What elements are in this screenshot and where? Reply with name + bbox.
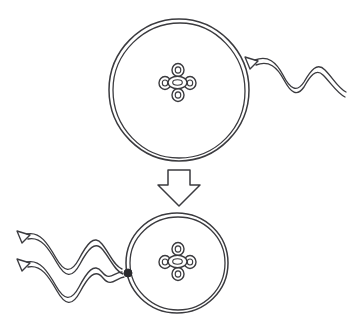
incoming-photon-wave [245, 57, 346, 97]
upper-stage-group [109, 19, 346, 161]
figure-root: Photon splitting in a vesicle containing… [0, 0, 361, 328]
lower-stage-group [17, 213, 228, 313]
lower-molecular-cluster [159, 243, 196, 281]
upper-molecular-cluster [159, 64, 196, 102]
emission-site-dot [124, 269, 132, 277]
outgoing-photon-wave-1 [17, 231, 123, 274]
outgoing-photon-wave-2 [17, 259, 124, 302]
diagram-canvas [0, 0, 361, 328]
process-arrow-down [158, 170, 200, 206]
